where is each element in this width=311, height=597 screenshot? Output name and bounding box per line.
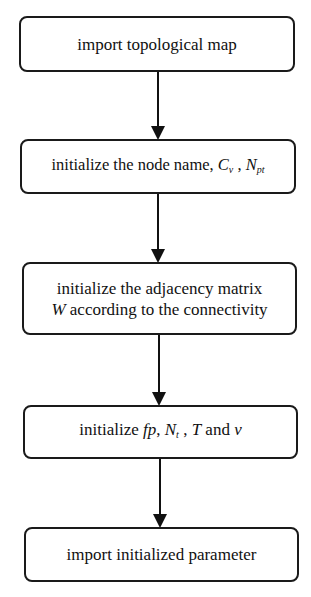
arrowhead-icon [151,249,165,263]
var-fp: fp [143,420,156,439]
step-initialize-node-name: initialize the node name, Cv , Npt [20,139,296,194]
var-c: C [218,155,229,174]
separator: , [179,420,192,439]
step-import-topological-map: import topological map [19,16,295,72]
step-initialize-adjacency-matrix: initialize the adjacency matrix W accord… [22,262,297,335]
step-3-line-2: according to the connectivity [66,300,268,319]
var-w: W [51,300,65,319]
step-5-label: import initialized parameter [67,544,257,565]
conjunction: and [201,420,234,439]
step-2-prefix: initialize the node name, [52,155,218,174]
arrowhead-icon [152,392,166,406]
var-t: T [192,420,201,439]
arrow-1-to-2 [157,72,159,128]
step-4-label: initialize fp, Nt , T and v [79,419,241,445]
separator: , [233,155,245,174]
arrowhead-icon [153,514,167,528]
var-v: v [234,420,242,439]
var-n: N [246,155,257,174]
step-3-line-1: initialize the adjacency matrix [57,279,262,298]
step-2-label: initialize the node name, Cv , Npt [52,154,265,180]
var-n-sub: pt [257,164,265,175]
arrow-3-to-4 [158,335,160,393]
arrow-4-to-5 [159,459,161,515]
step-3-label: initialize the adjacency matrix W accord… [51,278,267,320]
step-4-prefix: initialize [79,420,143,439]
arrowhead-icon [151,126,165,140]
var-n: N [165,420,176,439]
step-import-initialized-parameter: import initialized parameter [24,527,299,582]
separator: , [156,420,165,439]
arrow-2-to-3 [157,194,159,250]
step-1-label: import topological map [77,34,237,55]
step-initialize-parameters: initialize fp, Nt , T and v [23,405,298,459]
